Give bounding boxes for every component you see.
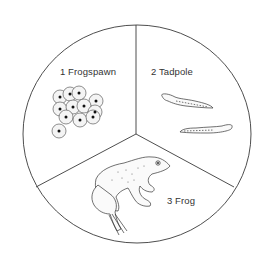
stage-label-tadpole: 2 Tadpole xyxy=(151,66,193,77)
frog-icon xyxy=(92,157,170,235)
life-cycle-diagram xyxy=(0,0,267,264)
tadpole-icon xyxy=(162,94,232,133)
stage-label-frog: 3 Frog xyxy=(167,195,195,206)
stage-label-frogspawn: 1 Frogspawn xyxy=(60,66,116,77)
